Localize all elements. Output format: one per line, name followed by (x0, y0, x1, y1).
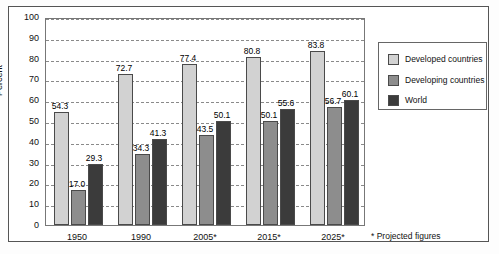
bar-developing-2025[interactable] (327, 107, 342, 225)
bar-value-label: 34.3 (129, 144, 154, 153)
legend-label-developed: Developed countries (405, 54, 483, 64)
y-axis-tick-label: 50 (13, 117, 39, 126)
y-axis-tick-label: 70 (13, 75, 39, 84)
bar-world-1950[interactable] (88, 164, 103, 225)
x-axis-tick-label: 1950 (45, 232, 109, 242)
bar-developed-2015[interactable] (246, 57, 261, 225)
legend-item-world[interactable]: World (388, 94, 427, 106)
y-axis-tick-label: 90 (13, 34, 39, 43)
x-axis-tick-label: 1990 (109, 232, 173, 242)
x-axis-tick-label: 2015* (237, 232, 301, 242)
y-axis-tick-label: 30 (13, 159, 39, 168)
bar-value-label: 77.4 (176, 54, 201, 63)
legend-swatch-developing-icon (388, 75, 399, 86)
bar-value-label: 83.8 (304, 41, 329, 50)
x-axis-tick-label: 2025* (301, 232, 365, 242)
gridline (46, 19, 364, 20)
bar-world-2005[interactable] (216, 121, 231, 225)
y-axis-tick-label: 100 (13, 13, 39, 22)
chart-legend: Developed countries Developing countries… (378, 42, 487, 110)
bar-value-label: 80.8 (240, 47, 265, 56)
legend-item-developing[interactable]: Developing countries (388, 74, 484, 86)
y-axis-tick-label: 20 (13, 179, 39, 188)
y-axis-label: Percent (0, 65, 4, 96)
legend-item-developed[interactable]: Developed countries (388, 53, 483, 65)
legend-swatch-developed-icon (388, 54, 399, 65)
bar-value-label: 55.6 (274, 99, 299, 108)
bar-developing-1990[interactable] (135, 154, 150, 225)
y-axis-tick-label: 60 (13, 96, 39, 105)
bar-value-label: 54.3 (48, 102, 73, 111)
bar-developed-1950[interactable] (54, 112, 69, 225)
bar-world-2025[interactable] (344, 100, 359, 225)
chart-figure: Percent Developed countries Developing c… (0, 0, 499, 254)
bar-developing-2005[interactable] (199, 135, 214, 225)
y-axis-tick-label: 10 (13, 200, 39, 209)
y-axis-tick-label: 40 (13, 138, 39, 147)
bar-value-label: 50.1 (257, 111, 282, 120)
y-axis-tick-label: 80 (13, 55, 39, 64)
legend-swatch-world-icon (388, 95, 399, 106)
bar-value-label: 41.3 (146, 129, 171, 138)
bar-world-1990[interactable] (152, 139, 167, 225)
x-axis-tick-label: 2005* (173, 232, 237, 242)
bar-value-label: 29.3 (82, 154, 107, 163)
bar-developed-2005[interactable] (182, 64, 197, 225)
bar-developing-1950[interactable] (71, 190, 86, 225)
bar-developing-2015[interactable] (263, 121, 278, 225)
footnote-projected-figures: * Projected figures (371, 231, 440, 241)
bar-world-2015[interactable] (280, 109, 295, 225)
legend-label-developing: Developing countries (405, 75, 484, 85)
bar-developed-2025[interactable] (310, 51, 325, 225)
bar-value-label: 17.0 (65, 180, 90, 189)
legend-label-world: World (405, 95, 427, 105)
bar-value-label: 43.5 (193, 125, 218, 134)
bar-value-label: 50.1 (210, 111, 235, 120)
bar-value-label: 60.1 (338, 90, 363, 99)
y-axis-tick-label: 0 (13, 221, 39, 230)
bar-value-label: 72.7 (112, 64, 137, 73)
